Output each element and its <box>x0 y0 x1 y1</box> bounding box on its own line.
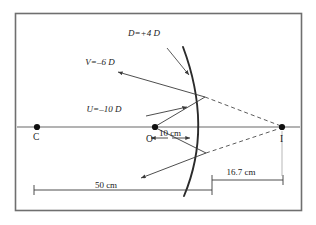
point-o-label: O <box>146 134 153 144</box>
point-i-label: I <box>280 134 283 144</box>
figure-border <box>16 14 302 211</box>
object-vergence-label: U=–10 D <box>87 104 122 114</box>
point-c-marker <box>34 124 40 130</box>
radius-label: 50 cm <box>95 180 117 190</box>
object-distance-label: 10 cm <box>159 128 181 138</box>
optics-diagram-figure: D=+4 D V=–6 D U=–10 D C O I 10 cm 50 cm … <box>0 0 316 225</box>
reflected-ray-lower <box>141 153 206 178</box>
diagram-canvas: D=+4 D V=–6 D U=–10 D C O I 10 cm 50 cm … <box>0 0 316 225</box>
point-o-marker <box>152 124 158 130</box>
power-label: D=+4 D <box>127 28 160 38</box>
image-vergence-label: V=–6 D <box>85 57 115 67</box>
virtual-ray-lower <box>206 128 281 153</box>
point-i-marker <box>279 124 285 130</box>
virtual-ray-upper <box>205 97 281 126</box>
point-c-label: C <box>33 132 39 142</box>
image-distance-label: 16.7 cm <box>227 167 256 177</box>
concave-mirror-arc <box>183 47 198 196</box>
